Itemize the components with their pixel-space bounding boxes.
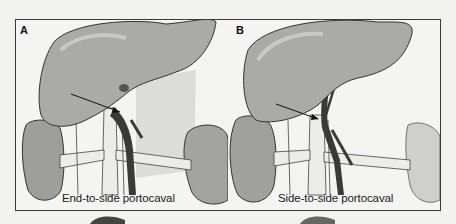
end-to-side-illustration: [16, 20, 228, 210]
caption-b: Side-to-side portocaval: [278, 192, 393, 204]
left-kidney: [406, 123, 440, 202]
panel-label-b: B: [236, 24, 244, 36]
right-kidney: [22, 120, 64, 200]
next-figure-partial: [0, 210, 456, 224]
caption-a: End-to-side portocaval: [62, 192, 175, 204]
panel-label-a: A: [20, 24, 28, 36]
right-kidney: [230, 116, 276, 202]
side-to-side-illustration: [228, 20, 440, 210]
panel-a: A End-to-side portocaval: [16, 20, 228, 210]
figure-frame: A End-to-side portocaval: [15, 19, 441, 211]
panel-b: B Side-to-side portocaval: [228, 20, 440, 210]
